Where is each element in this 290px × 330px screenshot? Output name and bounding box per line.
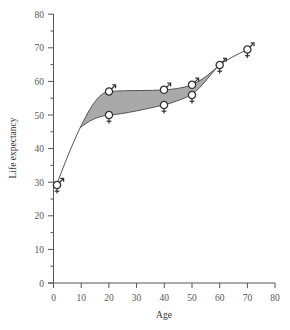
x-tick-label: 50 [187,293,197,303]
x-axis [48,283,275,288]
y-tick-label: 30 [35,178,45,188]
x-tick-label: 60 [215,293,225,303]
life-expectancy-chart: 0 10 20 30 40 50 60 70 80 0 10 20 30 40 … [0,0,290,330]
y-tick-labels: 0 10 20 30 40 50 60 70 80 [35,10,45,289]
x-tick-label: 20 [104,293,114,303]
x-tick-label: 10 [76,293,86,303]
x-axis-title: Age [156,310,172,320]
sex-gap-shaded-area [80,65,220,128]
female-marker-age-20 [105,111,112,123]
x-tick-label: 40 [160,293,170,303]
y-tick-label: 70 [35,43,45,53]
combined-sex-marker-age-60 [216,58,226,73]
y-tick-label: 0 [39,279,44,289]
y-axis-title: Life expectancy [8,117,18,178]
x-tick-label: 30 [132,293,142,303]
y-tick-label: 80 [35,10,45,20]
x-tick-label: 70 [243,293,253,303]
x-tick-label: 0 [51,293,56,303]
x-tick-label: 80 [270,293,280,303]
y-tick-label: 50 [35,111,45,121]
y-axis [48,14,54,283]
female-marker-age-50 [188,91,195,103]
female-marker-age-40 [160,101,167,113]
x-tick-labels: 0 10 20 30 40 50 60 70 80 [51,293,280,303]
y-tick-label: 40 [35,144,45,154]
combined-sex-marker-age-70 [244,43,254,58]
male-curve [56,50,247,186]
y-tick-label: 10 [35,245,45,255]
y-tick-label: 20 [35,211,45,221]
y-tick-label: 60 [35,77,45,87]
